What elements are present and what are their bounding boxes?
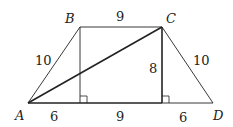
measure-base-mid: 9 xyxy=(116,109,124,124)
point-label-c: C xyxy=(166,11,176,26)
measure-base-right: 6 xyxy=(179,110,187,125)
measure-cd: 10 xyxy=(193,53,210,68)
measure-base-left: 6 xyxy=(50,109,58,124)
measure-bc: 9 xyxy=(116,9,124,24)
point-label-b: B xyxy=(64,11,75,26)
right-angle-mark-c xyxy=(162,96,169,103)
trapezoid-diagram: A B C D 10 9 10 8 6 9 6 xyxy=(0,0,233,127)
right-angle-mark-b xyxy=(80,96,87,103)
point-label-a: A xyxy=(14,108,24,123)
measure-ab: 10 xyxy=(35,53,52,68)
measure-height: 8 xyxy=(149,61,157,76)
point-label-d: D xyxy=(212,108,224,123)
